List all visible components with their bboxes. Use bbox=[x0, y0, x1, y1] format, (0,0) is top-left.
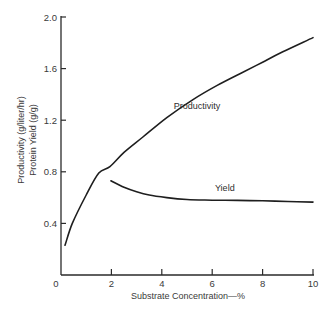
y-axis-title-line-1: Productivity (g/liter/hr) bbox=[16, 96, 26, 184]
y-tick-label: 0.8 bbox=[44, 166, 57, 177]
x-tick-label: 8 bbox=[260, 278, 265, 289]
y-tick-label: 1.2 bbox=[44, 115, 57, 126]
x-tick-label: 0 bbox=[53, 278, 58, 289]
yield-label: Yield bbox=[215, 183, 235, 193]
x-tick-label: 6 bbox=[210, 278, 215, 289]
x-ticks: 0246810 bbox=[53, 269, 318, 289]
x-axis-title: Substrate Concentration—% bbox=[131, 291, 245, 301]
series-labels: ProductivityYield bbox=[174, 101, 235, 193]
curves bbox=[65, 38, 313, 246]
y-tick-label: 0.4 bbox=[44, 218, 57, 229]
y-axis-title: Productivity (g/liter/hr) Protein Yield … bbox=[16, 96, 38, 184]
x-tick-label: 2 bbox=[109, 278, 114, 289]
x-tick-label: 4 bbox=[159, 278, 164, 289]
y-tick-label: 1.6 bbox=[44, 63, 57, 74]
y-ticks: 0.40.81.21.62.0 bbox=[44, 12, 66, 229]
yield-curve bbox=[111, 181, 313, 202]
y-tick-label: 2.0 bbox=[44, 12, 57, 23]
line-chart: 0.40.81.21.62.0 0246810 ProductivityYiel… bbox=[0, 0, 333, 316]
productivity-label: Productivity bbox=[174, 101, 221, 111]
x-tick-label: 10 bbox=[308, 278, 319, 289]
y-axis-title-line-2: Protein Yield (g/g) bbox=[28, 104, 38, 176]
productivity-curve bbox=[65, 38, 313, 246]
